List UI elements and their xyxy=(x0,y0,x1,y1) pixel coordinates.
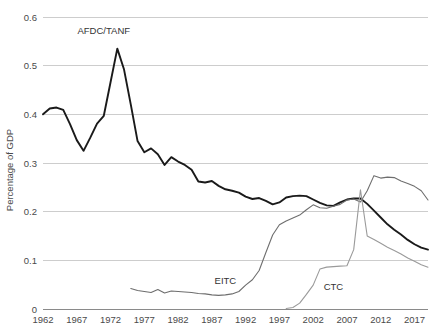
series-annotations: AFDC/TANFEITCCTC xyxy=(77,25,343,292)
x-axis-tick-label: 2007 xyxy=(336,314,357,325)
y-axis-tick-label: 0.3 xyxy=(24,158,37,169)
series-label-ctc: CTC xyxy=(324,281,344,292)
series-line-eitc xyxy=(131,176,428,296)
percentage-of-gdp-line-chart: 00.10.20.30.40.50.6 19621967197219771982… xyxy=(0,0,441,335)
y-axis-tick-label: 0.4 xyxy=(24,109,37,120)
y-axis-tick-label: 0.5 xyxy=(24,60,37,71)
x-axis-tick-label: 1967 xyxy=(66,314,87,325)
x-axis-tick-label: 1997 xyxy=(269,314,290,325)
series-lines xyxy=(43,49,428,309)
series-label-afdc-tanf: AFDC/TANF xyxy=(77,25,130,36)
y-axis-tick-label: 0.6 xyxy=(24,12,37,23)
series-line-afdc-tanf xyxy=(43,49,428,250)
x-axis-tick-label: 1972 xyxy=(100,314,121,325)
gridlines xyxy=(43,17,428,309)
x-axis-tick-label: 1982 xyxy=(168,314,189,325)
x-axis-tick-label: 1987 xyxy=(201,314,222,325)
y-axis-tick-labels: 00.10.20.30.40.50.6 xyxy=(24,12,37,315)
x-axis-tick-label: 2017 xyxy=(404,314,425,325)
y-axis-tick-label: 0 xyxy=(32,304,37,315)
x-axis-tick-label: 1962 xyxy=(32,314,53,325)
x-axis-tick-label: 1977 xyxy=(134,314,155,325)
x-axis-tick-labels: 1962196719721977198219871992199720022007… xyxy=(32,314,425,325)
x-axis-tick-label: 2002 xyxy=(303,314,324,325)
x-axis-tick-label: 1992 xyxy=(235,314,256,325)
chart-container: 00.10.20.30.40.50.6 19621967197219771982… xyxy=(0,0,441,335)
x-axis-tick-label: 2012 xyxy=(370,314,391,325)
y-axis-tick-label: 0.2 xyxy=(24,206,37,217)
y-axis-title: Percentage of GDP xyxy=(4,129,15,211)
series-label-eitc: EITC xyxy=(215,275,237,286)
series-line-ctc xyxy=(286,190,428,309)
y-axis-tick-label: 0.1 xyxy=(24,255,37,266)
